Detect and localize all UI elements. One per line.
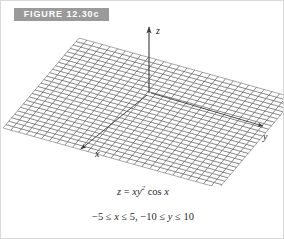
domain-x-high: ≤ 5, (119, 211, 141, 222)
y-axis-label: y (262, 131, 268, 142)
surface-plot-svg: z y x (1, 21, 284, 186)
caption-block: z = xy2 cos x −5 ≤ x ≤ 5, −10 ≤ y ≤ 10 (1, 185, 284, 223)
x-axis-label: x (94, 148, 100, 159)
domain-y-high: ≤ 10 (172, 211, 194, 222)
figure-banner-label: FIGURE 12.30c (24, 10, 100, 19)
equation-equals: = (121, 186, 132, 197)
figure-banner: FIGURE 12.30c (14, 8, 109, 21)
equation-term: xy (132, 186, 141, 197)
z-axis-label: z (155, 25, 160, 36)
surface-mesh (3, 38, 284, 186)
caption-equation: z = xy2 cos x (1, 185, 284, 197)
equation-cos: cos (145, 186, 164, 197)
figure-container: FIGURE 12.30c z y x z = xy2 cos x (0, 0, 284, 239)
equation-variable: x (164, 186, 169, 197)
caption-domain: −5 ≤ x ≤ 5, −10 ≤ y ≤ 10 (1, 212, 284, 223)
surface-plot: z y x (1, 21, 284, 186)
domain-x-low: −5 ≤ (92, 211, 114, 222)
domain-y-low: −10 ≤ (140, 211, 167, 222)
